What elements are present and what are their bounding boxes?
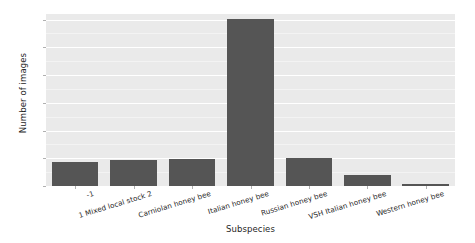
- bar: [227, 19, 274, 186]
- x-tick-mark: [192, 186, 193, 189]
- x-tick-label-wrap: VSH Italian honey bee: [383, 189, 384, 190]
- bar: [286, 158, 333, 186]
- x-axis-label: Subspecies: [46, 224, 455, 234]
- x-tick-mark: [251, 186, 252, 189]
- bar: [344, 175, 391, 186]
- x-tick-label-wrap: Italian honey bee: [267, 189, 268, 190]
- x-tick-label-wrap: Carniolan honey bee: [208, 189, 209, 190]
- x-tick-label: -1: [85, 189, 95, 200]
- plot-area: [46, 14, 455, 186]
- x-tick-label-wrap: Russian honey bee: [325, 189, 326, 190]
- bar-chart-figure: Number of images 05001000150020002500300…: [0, 0, 475, 243]
- x-tick-mark: [75, 186, 76, 189]
- bar: [169, 159, 216, 186]
- x-tick-label-wrap: 1 Mixed local stock 2: [150, 189, 151, 190]
- bar: [52, 162, 99, 186]
- x-tick-mark: [426, 186, 427, 189]
- bar: [110, 160, 157, 186]
- x-tick-label-wrap: -1: [91, 189, 92, 190]
- x-tick-mark: [309, 186, 310, 189]
- y-axis-label: Number of images: [16, 0, 30, 186]
- x-tick-mark: [134, 186, 135, 189]
- x-tick-label-wrap: Western honey bee: [442, 189, 443, 190]
- x-tick-mark: [367, 186, 368, 189]
